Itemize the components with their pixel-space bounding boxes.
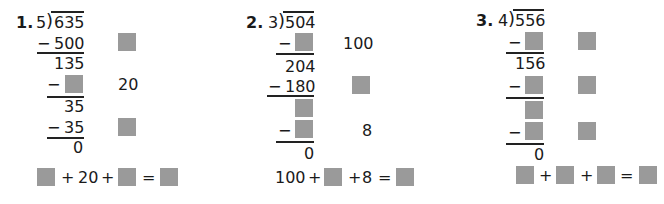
answer-box-quotient-2[interactable] <box>352 76 370 94</box>
final-remainder: 0 <box>534 146 544 164</box>
answer-box-term-2[interactable] <box>556 166 574 184</box>
answer-box-remainder-2[interactable] <box>295 99 313 117</box>
dividend: 635 <box>54 14 85 32</box>
plus-sign: + <box>101 169 114 187</box>
minus-sign: − <box>278 35 291 53</box>
minus-sign: − <box>508 124 521 142</box>
answer-box-result[interactable] <box>639 166 657 184</box>
division-bracket: ) <box>46 11 53 31</box>
answer-box-subtrahend-2[interactable] <box>525 76 543 94</box>
subtrahend-3: 35 <box>64 119 84 137</box>
subtraction-line <box>506 97 544 99</box>
answer-box-term-2[interactable] <box>324 168 342 186</box>
equals-sign: = <box>378 169 391 187</box>
subtraction-line <box>276 53 314 55</box>
answer-box-subtrahend-1[interactable] <box>295 33 313 51</box>
equation-term-1: 100 <box>275 169 306 187</box>
plus-sign: + <box>539 167 552 185</box>
answer-box-term-3[interactable] <box>597 166 615 184</box>
equals-sign: = <box>620 167 633 185</box>
minus-sign: − <box>268 78 281 96</box>
answer-box-term-1[interactable] <box>516 166 534 184</box>
plus-sign: + <box>580 167 593 185</box>
answer-box-subtrahend-3[interactable] <box>525 122 543 140</box>
remainder-1: 135 <box>54 55 85 73</box>
minus-sign: − <box>47 119 60 137</box>
minus-sign: − <box>37 35 50 53</box>
plus-sign: + <box>61 169 74 187</box>
remainder-1: 156 <box>515 55 546 73</box>
answer-box-subtrahend-2[interactable] <box>65 75 83 93</box>
problem-number: 2. <box>246 14 263 32</box>
remainder-1: 204 <box>285 58 316 76</box>
partial-quotient-3: 8 <box>362 122 372 140</box>
final-remainder: 0 <box>304 145 314 163</box>
division-bracket: ) <box>508 9 515 29</box>
dividend: 556 <box>515 12 546 30</box>
minus-sign: − <box>47 76 60 94</box>
answer-box-remainder-2[interactable] <box>525 101 543 119</box>
answer-box-result[interactable] <box>396 168 414 186</box>
subtrahend-2: 180 <box>285 78 316 96</box>
subtraction-line <box>267 95 314 97</box>
plus-sign: + <box>348 169 361 187</box>
answer-box-subtrahend-1[interactable] <box>525 32 543 50</box>
answer-box-quotient-2[interactable] <box>578 76 596 94</box>
minus-sign: − <box>508 78 521 96</box>
equals-sign: = <box>142 169 155 187</box>
minus-sign: − <box>278 122 291 140</box>
answer-box-term-3[interactable] <box>118 168 136 186</box>
answer-box-result[interactable] <box>160 168 178 186</box>
minus-sign: − <box>508 34 521 52</box>
division-bracket: ) <box>278 11 285 31</box>
divisor: 3 <box>268 14 278 32</box>
answer-box-term-1[interactable] <box>37 168 55 186</box>
answer-box-subtrahend-3[interactable] <box>295 120 313 138</box>
subtraction-line <box>276 141 314 143</box>
divisor: 5 <box>36 14 46 32</box>
divisor: 4 <box>498 12 508 30</box>
remainder-2: 35 <box>64 98 84 116</box>
answer-box-quotient-3[interactable] <box>118 118 136 136</box>
answer-box-quotient-1[interactable] <box>578 32 596 50</box>
dividend: 504 <box>285 14 316 32</box>
answer-box-quotient-3[interactable] <box>578 122 596 140</box>
equation-term-2: 20 <box>78 169 98 187</box>
answer-box-quotient-1[interactable] <box>118 33 136 51</box>
problem-number: 3. <box>476 12 493 30</box>
problem-number: 1. <box>16 14 33 32</box>
partial-quotient-1: 100 <box>343 35 374 53</box>
subtrahend-1: 500 <box>54 35 85 53</box>
partial-quotient-2: 20 <box>118 76 138 94</box>
final-remainder: 0 <box>73 139 83 157</box>
equation-term-3: 8 <box>362 169 372 187</box>
plus-sign: + <box>308 169 321 187</box>
